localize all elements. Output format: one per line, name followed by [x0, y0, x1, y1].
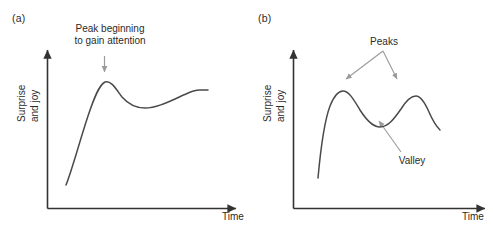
panel-b-plot — [246, 0, 493, 241]
panel-b-peaks-arrow-left-icon — [346, 51, 383, 79]
panel-a: (a) Surprise and joy Peak beginning to g… — [0, 0, 247, 241]
panel-b-peaks-arrow-right-icon — [383, 51, 397, 79]
panel-a-curve — [66, 82, 208, 185]
panel-b-valley-arrow-icon — [379, 121, 401, 152]
panel-b: (b) Surprise and joy Peaks Valley Time — [246, 0, 493, 241]
panel-a-plot — [0, 0, 247, 241]
panel-b-curve — [318, 91, 440, 178]
figure-container: (a) Surprise and joy Peak beginning to g… — [0, 0, 493, 241]
